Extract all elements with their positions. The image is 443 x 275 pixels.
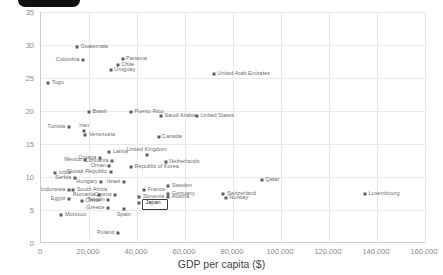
data-point-label: Serbia xyxy=(55,175,71,181)
data-point-label: Latvia xyxy=(113,149,128,155)
data-point-marker[interactable] xyxy=(212,73,215,76)
data-point-label: Luxembourg xyxy=(369,191,400,197)
data-point-marker[interactable] xyxy=(109,69,112,72)
gridline-vertical xyxy=(425,12,426,243)
data-point-label: Norway xyxy=(229,195,248,201)
data-point-marker[interactable] xyxy=(107,207,110,210)
data-point-label: Brasil xyxy=(93,109,107,115)
x-tick-label: 20,000 xyxy=(77,247,100,256)
x-tick-label: 160,000 xyxy=(410,247,437,256)
data-point-label: United Arab Emirates xyxy=(217,71,270,77)
data-point-marker[interactable] xyxy=(122,180,125,183)
y-tick-label: 20 xyxy=(10,107,34,116)
data-point-marker[interactable] xyxy=(143,189,146,192)
x-tick-label: 40,000 xyxy=(125,247,148,256)
top-left-badge[interactable] xyxy=(18,0,80,7)
y-tick-label: 5 xyxy=(10,206,34,215)
x-tick-label: 100,000 xyxy=(266,247,293,256)
gridline-vertical xyxy=(185,12,186,243)
data-point-marker[interactable] xyxy=(110,160,113,163)
data-point-marker[interactable] xyxy=(107,199,110,202)
data-point-marker[interactable] xyxy=(138,201,141,204)
data-point-label: Venezuela xyxy=(89,133,115,139)
data-point-marker[interactable] xyxy=(160,114,163,117)
data-point-marker[interactable] xyxy=(167,185,170,188)
data-point-label: Iran xyxy=(79,123,89,129)
x-tick-label: 140,000 xyxy=(362,247,389,256)
data-point-label: Guatemala xyxy=(81,44,108,50)
data-point-label: Qatar xyxy=(265,178,279,184)
data-point-marker[interactable] xyxy=(364,193,367,196)
x-tick-label: 120,000 xyxy=(314,247,341,256)
gridline-horizontal xyxy=(41,177,425,178)
gridline-vertical xyxy=(233,12,234,243)
data-point-label: Canada xyxy=(162,134,182,140)
data-point-marker[interactable] xyxy=(222,192,225,195)
data-point-marker[interactable] xyxy=(72,188,75,191)
data-point-marker[interactable] xyxy=(100,180,103,183)
data-point-label: Republic of Korea xyxy=(135,164,179,170)
y-tick-label: 0 xyxy=(10,239,34,248)
data-point-label: Austria xyxy=(172,195,189,201)
x-axis-title: GDP per capita ($) xyxy=(0,258,443,270)
selected-point-label: Japan xyxy=(145,200,160,206)
data-point-marker[interactable] xyxy=(138,195,141,198)
data-point-marker[interactable] xyxy=(260,179,263,182)
gridline-vertical xyxy=(377,12,378,243)
data-point-marker[interactable] xyxy=(196,115,199,118)
data-point-marker[interactable] xyxy=(60,213,63,216)
y-tick-label: 15 xyxy=(10,140,34,149)
y-tick-label: 30 xyxy=(10,41,34,50)
data-point-marker[interactable] xyxy=(67,125,70,128)
x-tick-label: 80,000 xyxy=(221,247,244,256)
gridline-horizontal xyxy=(41,12,425,13)
data-point-marker[interactable] xyxy=(145,153,148,156)
data-point-marker[interactable] xyxy=(167,192,170,195)
data-point-marker[interactable] xyxy=(88,110,91,113)
data-point-label: Slovak Republic xyxy=(67,170,107,176)
gridline-horizontal xyxy=(41,144,425,145)
data-point-marker[interactable] xyxy=(108,165,111,168)
gridline-vertical xyxy=(329,12,330,243)
data-point-label: Sweden xyxy=(172,183,192,189)
data-point-label: Hungary xyxy=(76,179,97,185)
data-point-marker[interactable] xyxy=(84,134,87,137)
data-point-marker[interactable] xyxy=(116,232,119,235)
data-point-marker[interactable] xyxy=(83,129,86,132)
y-tick-label: 25 xyxy=(10,74,34,83)
x-tick-label: 60,000 xyxy=(173,247,196,256)
data-point-marker[interactable] xyxy=(121,57,124,60)
data-point-label: Indonesia xyxy=(41,187,65,193)
data-point-marker[interactable] xyxy=(114,193,117,196)
data-point-label: Togo xyxy=(52,80,64,86)
gridline-vertical xyxy=(281,12,282,243)
gridline-horizontal xyxy=(41,78,425,79)
data-point-label: Mexico xyxy=(64,157,82,163)
data-point-marker[interactable] xyxy=(130,110,133,113)
x-tick-label: 0 xyxy=(38,247,42,256)
data-point-label: Tunisia xyxy=(47,124,65,130)
data-point-label: Spain xyxy=(117,212,131,218)
data-point-marker[interactable] xyxy=(157,135,160,138)
data-point-marker[interactable] xyxy=(47,81,50,84)
data-point-marker[interactable] xyxy=(67,188,70,191)
data-point-label: Morocco xyxy=(65,212,86,218)
data-point-label: Saudi Arabia xyxy=(165,113,197,119)
data-point-marker[interactable] xyxy=(108,150,111,153)
data-point-marker[interactable] xyxy=(224,197,227,200)
y-tick-label: 35 xyxy=(10,8,34,17)
data-point-label: Poland xyxy=(97,230,114,236)
gridline-vertical xyxy=(137,12,138,243)
data-point-marker[interactable] xyxy=(80,200,83,203)
data-point-label: Uruguay xyxy=(114,67,135,73)
data-point-label: United Kingdom xyxy=(127,147,167,153)
data-point-marker[interactable] xyxy=(76,45,79,48)
data-point-marker[interactable] xyxy=(82,58,85,61)
data-point-marker[interactable] xyxy=(67,197,70,200)
data-point-label: Israel xyxy=(107,179,121,185)
y-tick-label: 10 xyxy=(10,173,34,182)
scatter-chart: GuatemalaColombiaPanamaChileUruguayUnite… xyxy=(0,0,443,275)
data-point-label: United States xyxy=(201,113,235,119)
data-point-marker[interactable] xyxy=(130,166,133,169)
data-point-marker[interactable] xyxy=(109,171,112,174)
